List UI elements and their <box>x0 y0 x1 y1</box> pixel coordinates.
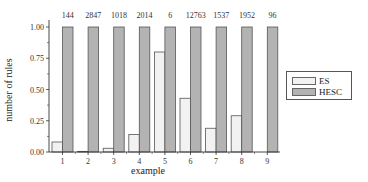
bar-es-4 <box>129 135 140 153</box>
count-label-6: 12763 <box>186 11 206 20</box>
y-tick-label: 0.75 <box>30 54 44 63</box>
bar-es-7 <box>206 128 217 152</box>
count-label-5: 6 <box>168 11 172 20</box>
bar-es-3 <box>103 148 114 152</box>
y-tick-label: 1.00 <box>30 23 44 32</box>
count-label-9: 96 <box>269 11 277 20</box>
bar-hesc-9 <box>267 27 278 152</box>
x-tick-label-2: 2 <box>86 157 90 166</box>
x-tick-label-7: 7 <box>214 157 218 166</box>
y-tick-label: 0.00 <box>30 148 44 157</box>
legend: ES HESC <box>286 71 352 100</box>
x-tick-label-3: 3 <box>112 157 116 166</box>
bar-hesc-4 <box>139 27 150 152</box>
bar-es-8 <box>231 116 242 152</box>
bar-hesc-6 <box>191 27 202 152</box>
legend-label-es: ES <box>319 76 330 86</box>
bar-hesc-1 <box>63 27 74 152</box>
count-label-8: 1952 <box>239 11 255 20</box>
x-tick-label-8: 8 <box>240 157 244 166</box>
count-label-3: 1018 <box>111 11 127 20</box>
x-tick-label-1: 1 <box>61 157 65 166</box>
legend-swatch-hesc <box>292 88 316 96</box>
legend-label-hesc: HESC <box>319 87 342 97</box>
legend-swatch-es <box>292 77 316 85</box>
legend-item-hesc: HESC <box>292 87 342 97</box>
bar-hesc-8 <box>242 27 253 152</box>
count-label-1: 144 <box>62 11 74 20</box>
bar-hesc-3 <box>114 27 125 152</box>
x-tick-label-6: 6 <box>189 157 193 166</box>
bar-hesc-5 <box>165 27 176 152</box>
count-label-2: 2847 <box>85 11 101 20</box>
legend-item-es: ES <box>292 76 330 86</box>
count-label-4: 2014 <box>137 11 153 20</box>
x-tick-label-9: 9 <box>265 157 269 166</box>
count-label-7: 1537 <box>213 11 229 20</box>
bar-es-5 <box>154 52 165 152</box>
y-tick-label: 0.25 <box>30 117 44 126</box>
bar-hesc-2 <box>88 27 99 152</box>
bar-hesc-7 <box>216 27 227 152</box>
y-tick-label: 0.50 <box>30 86 44 95</box>
x-axis-title: example <box>131 165 165 176</box>
y-axis-title: number of rules <box>3 58 14 121</box>
bar-es-1 <box>52 142 63 152</box>
bar-es-6 <box>180 98 191 152</box>
